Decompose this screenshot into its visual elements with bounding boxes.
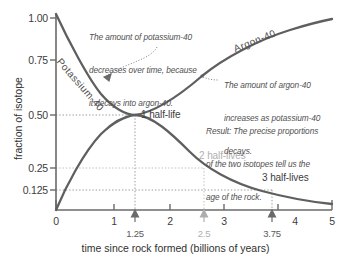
x-marker-label-3-75: 3.75 [255,228,289,239]
x-tick-label-5: 5 [322,215,342,227]
argon-note-leader [203,77,219,80]
potassium-annotation: The amount of potassium-40 decreases ove… [89,10,197,130]
x-marker-label-2-5: 2.5 [187,228,221,239]
potassium-annotation-line-2: decreases over time, because [89,65,197,76]
x-tick-label-0: 0 [46,215,66,227]
potassium-annotation-line-1: The amount of potassium-40 [89,32,197,43]
isotope-decay-chart: 1.00 0.75 0.50 0.25 0.125 0 1 2 3 4 5 1.… [0,0,351,258]
y-axis-title: fraction of isotope [12,77,24,160]
x-marker-label-1-25: 1.25 [118,228,152,239]
x-tick-label-2: 2 [160,215,180,227]
result-annotation-line-1: Result: The precise proportions [206,126,318,137]
y-tick-label-1-00: 1.00 [6,12,48,24]
potassium-annotation-line-3: it decays into argon-40. [89,98,197,109]
result-annotation-line-3: age of the rock. [206,192,318,203]
x-axis-title: time since rock formed (billions of year… [0,242,351,254]
argon-note-anchor-dot [200,74,203,77]
half-life-1-arrow [132,210,139,222]
y-tick-label-0-125: 0.125 [0,184,48,196]
y-tick-label-0-75: 0.75 [6,54,48,66]
x-tick-label-1: 1 [104,215,124,227]
argon-annotation-line-1: The amount of argon-40 [224,80,320,91]
result-annotation-line-2: of the two isotopes tell us the [206,159,318,170]
y-tick-label-0-25: 0.25 [6,162,48,174]
result-annotation: Result: The precise proportions of the t… [206,104,318,224]
